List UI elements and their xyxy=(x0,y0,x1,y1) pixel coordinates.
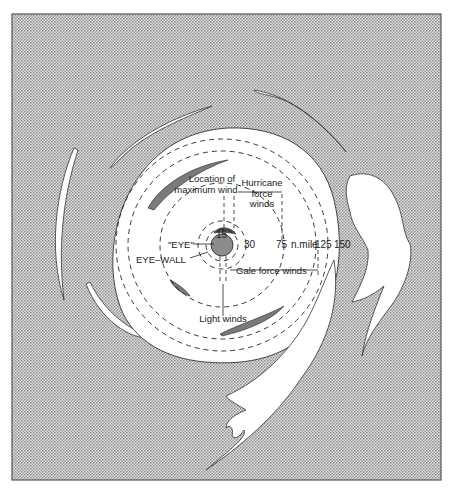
hurricane-diagram: Location of maximum wind Hurricane force… xyxy=(0,0,449,498)
label-location-max-wind-2: maximum wind xyxy=(174,184,237,195)
label-eye-wall: EYE–WALL xyxy=(136,254,186,265)
label-eye: "EYE" xyxy=(168,239,194,250)
scale-125: 125 xyxy=(315,239,332,250)
label-hurricane-force-3: winds xyxy=(249,198,275,209)
scale-15: 15 xyxy=(216,229,228,240)
label-location-max-wind-1: Location of xyxy=(189,173,236,184)
scale-75: 75 xyxy=(276,239,288,250)
label-hurricane-force-1: Hurricane xyxy=(241,177,282,188)
label-light-winds: Light winds xyxy=(199,313,247,324)
scale-150: 150 xyxy=(334,239,351,250)
label-gale-force: Gale force winds xyxy=(236,265,307,276)
scale-30: 30 xyxy=(244,239,256,250)
